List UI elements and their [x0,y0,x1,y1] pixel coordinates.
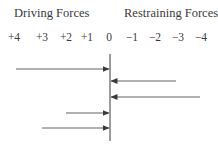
force-field-diagram [0,0,218,150]
